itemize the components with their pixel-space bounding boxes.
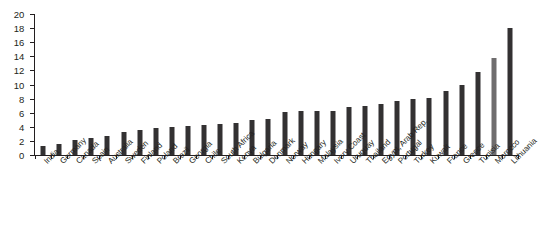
y-tick-16: [30, 42, 34, 43]
y-tick-label-12: 12: [2, 65, 24, 76]
y-tick-label-16: 16: [2, 37, 24, 48]
bar-slot: [438, 14, 454, 155]
bar-slot: [486, 14, 502, 155]
y-tick-0: [30, 155, 34, 156]
bar-slot: [260, 14, 276, 155]
bar: [491, 58, 496, 155]
y-tick-label-18: 18: [2, 23, 24, 34]
y-tick-label-2: 2: [2, 135, 24, 146]
y-tick-20: [30, 14, 34, 15]
bar-slot: [389, 14, 405, 155]
bar-slot: [454, 14, 470, 155]
bar: [507, 28, 512, 155]
bar-slot: [470, 14, 486, 155]
y-tick-label-6: 6: [2, 107, 24, 118]
bar-slot: [148, 14, 164, 155]
bar: [41, 146, 46, 155]
bar-slot: [132, 14, 148, 155]
bar-slot: [164, 14, 180, 155]
y-tick-label-4: 4: [2, 121, 24, 132]
bar-slot: [116, 14, 132, 155]
bar-slot: [228, 14, 244, 155]
bar-slot: [51, 14, 67, 155]
y-axis-tick-labels: 02468101214161820: [0, 14, 30, 155]
bar-slot: [309, 14, 325, 155]
bar-series: [35, 14, 518, 155]
y-tick-label-14: 14: [2, 51, 24, 62]
y-tick-label-0: 0: [2, 150, 24, 161]
bar-slot: [83, 14, 99, 155]
bar-slot: [293, 14, 309, 155]
y-tick-label-10: 10: [2, 79, 24, 90]
bar-slot: [99, 14, 115, 155]
plot-area: [34, 14, 518, 155]
y-tick-4: [30, 127, 34, 128]
bar-slot: [212, 14, 228, 155]
bar-slot: [277, 14, 293, 155]
y-tick-label-8: 8: [2, 93, 24, 104]
y-tick-10: [30, 85, 34, 86]
x-tick-origin: [35, 155, 36, 159]
x-axis-category-labels: IndiaGermanyCanadaSpainAustraliaSwedenFi…: [35, 160, 525, 232]
bar-slot: [325, 14, 341, 155]
y-tick-8: [30, 99, 34, 100]
bar-slot: [421, 14, 437, 155]
y-tick-18: [30, 28, 34, 29]
bar-slot: [67, 14, 83, 155]
bar-slot: [35, 14, 51, 155]
y-tick-12: [30, 70, 34, 71]
y-tick-6: [30, 113, 34, 114]
y-tick-14: [30, 56, 34, 57]
bar-slot: [341, 14, 357, 155]
bar-slot: [180, 14, 196, 155]
bar-slot: [502, 14, 518, 155]
bar-slot: [196, 14, 212, 155]
bar-slot: [373, 14, 389, 155]
y-tick-2: [30, 141, 34, 142]
y-tick-label-20: 20: [2, 9, 24, 20]
